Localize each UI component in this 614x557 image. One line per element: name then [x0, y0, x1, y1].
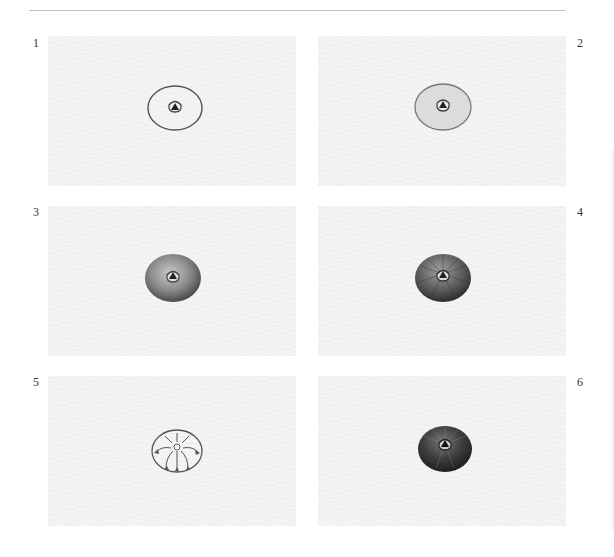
figure-step-5	[150, 428, 204, 474]
step-number-4: 4	[577, 205, 583, 220]
figure-step-3	[143, 252, 203, 304]
figure-step-4	[413, 252, 473, 304]
step-number-6: 6	[577, 375, 583, 390]
step-number-2: 2	[577, 36, 583, 51]
step-number-5: 5	[33, 375, 39, 390]
figure-step-6	[416, 424, 474, 474]
top-rule	[29, 10, 565, 11]
figure-step-2	[413, 82, 473, 132]
step-number-1: 1	[33, 36, 39, 51]
step-number-3: 3	[33, 205, 39, 220]
figure-step-1	[146, 84, 204, 132]
